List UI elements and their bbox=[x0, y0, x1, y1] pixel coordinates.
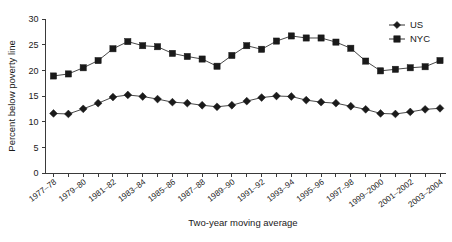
x-axis-title: Two-year moving average bbox=[188, 217, 297, 228]
data-point-marker bbox=[124, 91, 132, 99]
data-point-marker bbox=[392, 66, 398, 72]
data-point-marker bbox=[125, 38, 131, 44]
data-point-marker bbox=[64, 110, 72, 118]
data-point-marker bbox=[333, 39, 339, 45]
data-point-marker bbox=[169, 98, 177, 106]
y-tick-label: 30 bbox=[28, 14, 38, 24]
y-tick-label: 20 bbox=[28, 66, 38, 76]
data-point-marker bbox=[362, 105, 370, 113]
y-tick-label: 25 bbox=[28, 40, 38, 50]
data-point-marker bbox=[377, 110, 385, 118]
legend-item-us: US bbox=[389, 19, 423, 30]
poverty-line-chart: 051015202530 Percent below poverty line … bbox=[0, 0, 452, 242]
x-tick-label: 1995–96 bbox=[295, 177, 326, 204]
x-tick-label: 1981–82 bbox=[87, 177, 118, 204]
data-point-marker bbox=[244, 43, 250, 49]
data-point-marker bbox=[169, 50, 175, 56]
data-point-marker bbox=[139, 93, 147, 101]
series-us bbox=[50, 91, 444, 118]
y-tick-label: 10 bbox=[28, 117, 38, 127]
data-point-marker bbox=[406, 108, 414, 116]
data-point-marker bbox=[214, 63, 220, 69]
data-point-marker bbox=[377, 68, 383, 74]
data-point-marker bbox=[392, 110, 400, 118]
data-point-marker bbox=[94, 99, 102, 107]
data-point-marker bbox=[437, 57, 443, 63]
plot-area bbox=[50, 33, 444, 118]
chart-canvas: 051015202530 Percent below poverty line … bbox=[0, 0, 452, 242]
x-tick-label: 1993–94 bbox=[265, 177, 296, 204]
data-point-marker bbox=[421, 105, 429, 113]
data-point-marker bbox=[50, 73, 56, 79]
x-axis-tick-labels: 1977–781979–801981–821983–841985–861987–… bbox=[27, 177, 445, 209]
x-tick-label: 1989–90 bbox=[206, 177, 237, 204]
data-point-marker bbox=[154, 95, 162, 103]
data-point-marker bbox=[258, 94, 266, 102]
y-axis-ticks: 051015202530 bbox=[28, 14, 45, 178]
y-axis: 051015202530 Percent below poverty line bbox=[6, 14, 46, 178]
data-point-marker bbox=[198, 101, 206, 109]
y-axis-title: Percent below poverty line bbox=[6, 40, 17, 151]
y-tick-label: 5 bbox=[33, 143, 38, 153]
data-point-marker bbox=[332, 99, 340, 107]
legend-label-us: US bbox=[410, 19, 423, 30]
data-point-marker bbox=[50, 110, 58, 118]
data-point-marker bbox=[347, 102, 355, 110]
legend-marker-square-icon bbox=[394, 36, 400, 42]
data-point-marker bbox=[228, 101, 236, 109]
data-point-marker bbox=[303, 35, 309, 41]
data-point-marker bbox=[109, 93, 117, 101]
data-point-marker bbox=[199, 56, 205, 62]
data-point-marker bbox=[407, 65, 413, 71]
legend-marker-diamond-icon bbox=[393, 21, 400, 28]
data-point-marker bbox=[422, 64, 428, 70]
data-point-marker bbox=[184, 53, 190, 59]
data-point-marker bbox=[229, 52, 235, 58]
legend-item-nyc: NYC bbox=[389, 33, 430, 44]
data-point-marker bbox=[140, 43, 146, 49]
data-point-marker bbox=[65, 71, 71, 77]
data-point-marker bbox=[154, 44, 160, 50]
data-point-marker bbox=[317, 98, 325, 106]
data-point-marker bbox=[79, 105, 87, 113]
data-point-marker bbox=[259, 46, 265, 52]
data-point-marker bbox=[273, 38, 279, 44]
chart-legend: US NYC bbox=[389, 19, 430, 44]
data-point-marker bbox=[302, 96, 310, 104]
x-tick-label: 1987–88 bbox=[176, 177, 207, 204]
series-nyc bbox=[50, 33, 443, 79]
data-point-marker bbox=[213, 103, 221, 111]
x-tick-label: 1977–78 bbox=[27, 177, 58, 204]
data-point-marker bbox=[287, 93, 295, 101]
data-point-marker bbox=[318, 35, 324, 41]
x-tick-label: 1991–92 bbox=[235, 177, 266, 204]
x-tick-label: 1979–80 bbox=[57, 177, 88, 204]
x-axis: 1977–781979–801981–821983–841985–861987–… bbox=[27, 173, 446, 228]
data-point-marker bbox=[183, 99, 191, 107]
data-point-marker bbox=[363, 58, 369, 64]
data-point-marker bbox=[95, 57, 101, 63]
data-point-marker bbox=[436, 104, 444, 112]
x-tick-label: 1985–86 bbox=[146, 177, 177, 204]
data-point-marker bbox=[348, 45, 354, 51]
legend-label-nyc: NYC bbox=[410, 33, 430, 44]
data-point-marker bbox=[243, 97, 251, 105]
y-tick-label: 0 bbox=[33, 168, 38, 178]
data-point-marker bbox=[273, 92, 281, 100]
y-tick-label: 15 bbox=[28, 91, 38, 101]
data-point-marker bbox=[80, 65, 86, 71]
data-point-marker bbox=[288, 33, 294, 39]
x-tick-label: 1983–84 bbox=[117, 177, 148, 204]
data-point-marker bbox=[110, 46, 116, 52]
